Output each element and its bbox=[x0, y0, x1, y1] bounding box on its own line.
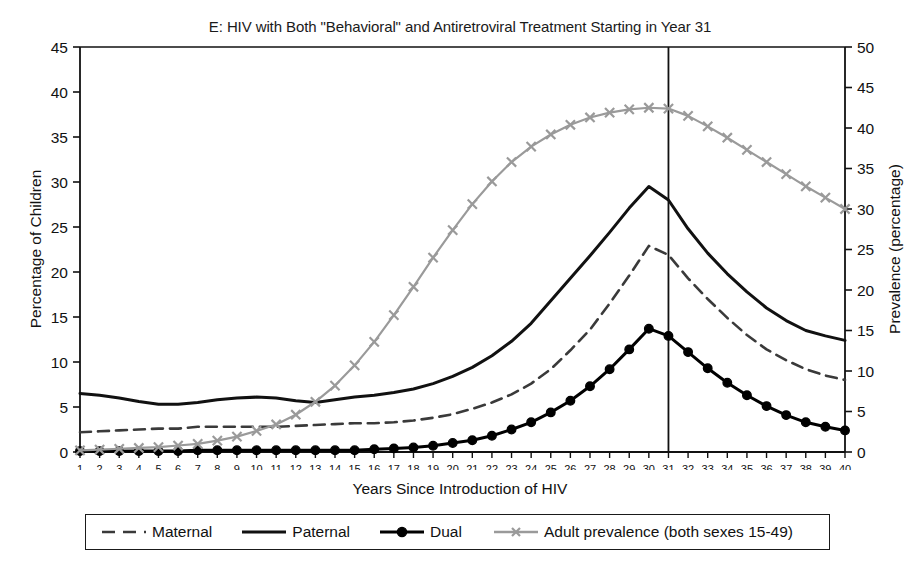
x-tick-label: 7 bbox=[195, 463, 201, 470]
series-marker-dual bbox=[841, 426, 850, 435]
x-axis-label: Years Since Introduction of HIV bbox=[0, 480, 920, 498]
series-marker-adult-prevalence bbox=[370, 337, 379, 346]
series-marker-dual bbox=[448, 439, 457, 448]
x-tick-label: 17 bbox=[388, 463, 400, 470]
x-tick-label: 3 bbox=[116, 463, 122, 470]
x-tick-label: 23 bbox=[505, 463, 517, 470]
x-tick-label: 21 bbox=[466, 463, 478, 470]
series-marker-dual bbox=[605, 365, 614, 374]
y-tick-label-right: 20 bbox=[857, 282, 875, 299]
series-marker-dual bbox=[488, 432, 497, 441]
series-marker-dual bbox=[507, 425, 516, 434]
legend-label-paternal: Paternal bbox=[292, 524, 350, 540]
series-marker-dual bbox=[311, 446, 320, 455]
x-tick-label: 36 bbox=[760, 463, 772, 470]
legend-item-maternal: Maternal bbox=[100, 524, 212, 540]
series-marker-dual bbox=[743, 391, 752, 400]
legend-label-adult-prevalence: Adult prevalence (both sexes 15-49) bbox=[544, 524, 793, 540]
y-tick-label-left: 15 bbox=[51, 309, 68, 326]
legend-item-dual: Dual bbox=[378, 524, 462, 540]
x-tick-label: 39 bbox=[819, 463, 831, 470]
y-tick-label-left: 30 bbox=[51, 174, 69, 191]
series-marker-adult-prevalence bbox=[389, 311, 398, 320]
series-marker-dual bbox=[801, 418, 810, 427]
series-marker-dual bbox=[370, 445, 379, 454]
x-tick-label: 16 bbox=[368, 463, 380, 470]
chart-figure: E: HIV with Both "Behavioral" and Antire… bbox=[0, 0, 920, 574]
x-tick-label: 20 bbox=[447, 463, 459, 470]
series-marker-dual bbox=[566, 396, 575, 405]
series-marker-dual bbox=[409, 443, 418, 452]
series-marker-dual bbox=[390, 444, 399, 453]
y-tick-label-left: 20 bbox=[51, 264, 69, 281]
series-line-dual bbox=[80, 329, 845, 451]
x-tick-label: 18 bbox=[407, 463, 419, 470]
y-tick-label-right: 0 bbox=[857, 444, 866, 461]
x-tick-label: 8 bbox=[214, 463, 220, 470]
legend-label-maternal: Maternal bbox=[152, 524, 212, 540]
x-tick-label: 26 bbox=[564, 463, 576, 470]
series-marker-adult-prevalence bbox=[782, 170, 791, 179]
series-marker-dual bbox=[625, 345, 634, 354]
y-tick-label-right: 25 bbox=[857, 241, 874, 258]
x-tick-label: 2 bbox=[97, 463, 103, 470]
x-tick-label: 27 bbox=[584, 463, 596, 470]
series-marker-dual bbox=[645, 324, 654, 333]
series-marker-dual bbox=[664, 332, 673, 341]
x-tick-label: 24 bbox=[525, 463, 537, 470]
series-marker-adult-prevalence bbox=[507, 157, 516, 166]
series-marker-dual bbox=[586, 382, 595, 391]
series-marker-adult-prevalence bbox=[409, 282, 418, 291]
series-marker-adult-prevalence bbox=[448, 225, 457, 234]
y-tick-label-left: 0 bbox=[59, 444, 68, 461]
x-tick-label: 5 bbox=[155, 463, 161, 470]
series-marker-adult-prevalence bbox=[291, 410, 300, 419]
series-marker-adult-prevalence bbox=[527, 142, 536, 151]
y-tick-label-left: 25 bbox=[51, 219, 68, 236]
series-marker-dual bbox=[291, 446, 300, 455]
y-tick-label-right: 45 bbox=[857, 79, 874, 96]
y-tick-label-right: 15 bbox=[857, 322, 874, 339]
series-marker-dual bbox=[703, 364, 712, 373]
legend-swatch-solid-line-circle-marker bbox=[378, 525, 426, 539]
x-tick-label: 12 bbox=[290, 463, 302, 470]
x-tick-label: 28 bbox=[603, 463, 615, 470]
series-marker-dual bbox=[782, 411, 791, 420]
series-marker-adult-prevalence bbox=[723, 133, 732, 142]
series-marker-dual bbox=[252, 446, 261, 455]
series-marker-dual bbox=[233, 446, 242, 455]
legend-label-dual: Dual bbox=[430, 524, 462, 540]
series-marker-dual bbox=[821, 423, 830, 432]
legend-item-adult-prevalence: Adult prevalence (both sexes 15-49) bbox=[492, 524, 793, 540]
series-marker-dual bbox=[272, 446, 281, 455]
x-tick-label: 19 bbox=[427, 463, 439, 470]
series-marker-adult-prevalence bbox=[428, 253, 437, 262]
y-tick-label-left: 35 bbox=[51, 129, 68, 146]
y-tick-label-right: 30 bbox=[857, 201, 875, 218]
y-tick-label-left: 10 bbox=[51, 354, 69, 371]
y-tick-label-right: 35 bbox=[857, 160, 874, 177]
series-line-paternal bbox=[80, 187, 845, 405]
x-tick-label: 35 bbox=[741, 463, 753, 470]
series-marker-adult-prevalence bbox=[801, 182, 810, 191]
x-tick-label: 37 bbox=[780, 463, 792, 470]
x-tick-label: 30 bbox=[643, 463, 655, 470]
series-marker-adult-prevalence bbox=[468, 200, 477, 209]
series-marker-dual bbox=[684, 348, 693, 357]
series-marker-adult-prevalence bbox=[703, 122, 712, 131]
series-marker-dual bbox=[468, 436, 477, 445]
x-tick-label: 6 bbox=[175, 463, 181, 470]
series-marker-dual bbox=[331, 446, 340, 455]
y-tick-label-right: 50 bbox=[857, 39, 875, 56]
series-marker-adult-prevalence bbox=[487, 177, 496, 186]
series-marker-adult-prevalence bbox=[546, 130, 555, 139]
x-tick-label: 14 bbox=[329, 463, 341, 470]
x-tick-label: 38 bbox=[800, 463, 812, 470]
x-tick-label: 40 bbox=[839, 463, 851, 470]
legend-swatch-gray-x-marker-line bbox=[492, 525, 540, 539]
x-tick-label: 34 bbox=[721, 463, 733, 470]
series-marker-dual bbox=[723, 378, 732, 387]
x-tick-label: 29 bbox=[623, 463, 635, 470]
legend-swatch-dashed-line bbox=[100, 525, 148, 539]
plot-area: 0510152025303540450510152025303540455012… bbox=[0, 0, 920, 470]
